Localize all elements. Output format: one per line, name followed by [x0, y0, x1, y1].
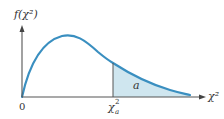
chi-square-chart: f(χ²) χ² 0 a χ 2 a [0, 0, 224, 119]
origin-label: 0 [19, 101, 25, 112]
svg-text:2: 2 [115, 98, 119, 106]
density-curve [22, 35, 190, 97]
x-axis-arrow-icon [199, 95, 206, 100]
area-label: a [133, 79, 140, 92]
svg-text:a: a [115, 108, 119, 116]
y-axis-arrow-icon [20, 25, 25, 32]
y-axis-label: f(χ²) [13, 8, 38, 21]
critical-value-label: χ 2 a [107, 98, 119, 116]
x-axis-label: χ² [207, 90, 219, 103]
